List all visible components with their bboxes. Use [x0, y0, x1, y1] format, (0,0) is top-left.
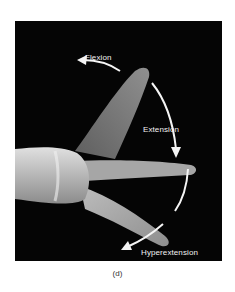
flexion-hand: [75, 68, 149, 159]
extension-label: Extension: [143, 125, 179, 134]
hand-motion-illustration: [15, 21, 222, 261]
flexion-label: Flexion: [85, 53, 112, 62]
hyperextension-hand: [80, 186, 169, 246]
extension-hand: [75, 160, 196, 181]
forearm: [15, 147, 89, 203]
hyperextension-label: Hyperextension: [141, 248, 198, 257]
extension-arrow: [152, 83, 176, 149]
figure-photo-panel: Flexion Extension Hyperextension: [15, 21, 222, 261]
figure-caption: (d): [0, 269, 235, 278]
extension-arrowhead-icon: [171, 147, 181, 158]
